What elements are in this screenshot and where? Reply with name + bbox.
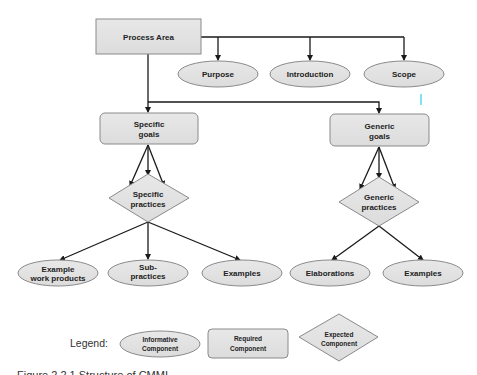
node-examples-specific: Examples [202,260,282,286]
node-label: Purpose [202,70,235,79]
legend-required: Required Component [208,329,288,358]
figure-caption: Figure 2.2.1 Structure of CMMI [17,367,168,375]
legend-label-line2: Component [142,345,179,353]
node-label-line2: work products [29,274,86,283]
cmmi-structure-diagram: Process Area Purpose Introduction Scope … [0,0,477,375]
scan-artifact-mark [420,94,422,105]
legend: Legend: Informative Component Required C… [70,314,378,361]
legend-label-line1: Expected [325,331,354,339]
node-scope: Scope [364,61,444,87]
node-label-line1: Generic [365,122,395,131]
node-label: Examples [404,269,442,278]
node-label-line2: practices [130,272,166,281]
node-label: Scope [392,70,417,79]
node-label: Examples [223,269,261,278]
node-label-line1: Generic [364,193,394,202]
node-example-work-products: Example work products [18,260,98,286]
legend-label-line2: Component [230,345,267,353]
legend-label-line1: Informative [142,336,177,343]
node-label: Elaborations [306,269,355,278]
node-label: Introduction [287,70,334,79]
node-specific-goals: Specific goals [100,113,198,144]
node-generic-practices: Generic practices [339,177,419,226]
node-label-line2: goals [369,132,390,141]
node-label-line2: practices [130,200,166,209]
node-generic-goals: Generic goals [330,114,429,146]
node-purpose: Purpose [178,61,258,87]
node-subpractices: Sub- practices [108,260,188,286]
node-examples-generic: Examples [383,260,463,286]
legend-label-line2: Component [321,340,358,348]
node-specific-practices: Specific practices [109,174,189,222]
node-label-line2: goals [139,130,160,139]
node-process-area: Process Area [96,19,201,54]
node-label-line2: practices [361,203,397,212]
node-label: Process Area [123,33,174,42]
node-label-line1: Example [42,265,75,274]
legend-title: Legend: [70,337,108,349]
node-label-line1: Specific [133,190,164,199]
legend-label-line1: Required [234,335,262,343]
node-label-line1: Sub- [139,263,157,272]
node-elaborations: Elaborations [290,260,370,286]
node-label-line1: Specific [134,120,165,129]
legend-expected: Expected Component [299,314,378,361]
legend-informative: Informative Component [120,331,200,357]
node-introduction: Introduction [270,61,350,87]
